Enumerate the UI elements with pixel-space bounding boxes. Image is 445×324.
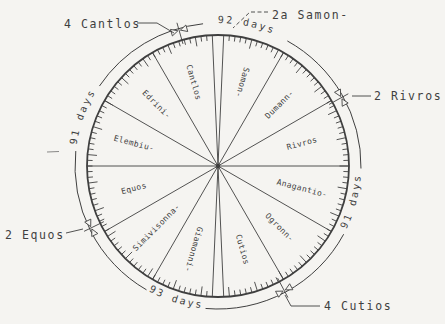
callout-label-2-rivros: 2 Rivros — [374, 89, 442, 103]
callout-label-4-cantlos: 4 Cantlos — [64, 17, 141, 31]
callout-label-2-equos: 2 Equos — [5, 228, 65, 242]
stray-dash-mark — [47, 152, 59, 153]
calendar-wheel-figure: 92 days91 days93 days91 daysSamon-Dumann… — [0, 0, 445, 324]
callout-label-4-cutios: 4 Cutios — [324, 299, 392, 313]
coligny-calendar-diagram: 92 days91 days93 days91 daysSamon-Dumann… — [0, 0, 445, 324]
hub-dot — [216, 164, 220, 168]
callout-label-2a-samon-: 2a Samon- — [272, 8, 349, 22]
